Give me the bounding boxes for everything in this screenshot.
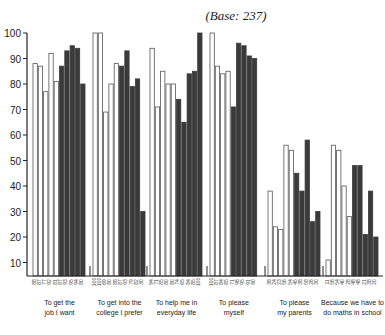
bar <box>358 166 362 276</box>
bar <box>368 191 372 276</box>
y-tick-label: 90 <box>10 54 22 65</box>
bar-value-label: 90 <box>250 279 256 285</box>
bar <box>171 84 175 276</box>
bar <box>182 122 186 276</box>
bar <box>38 66 42 276</box>
bar <box>120 66 124 276</box>
bar <box>33 64 37 276</box>
y-tick-label: 50 <box>10 156 22 167</box>
bar-value-label: 100 <box>195 278 201 287</box>
category-label: everyday life <box>157 309 196 317</box>
y-tick-label: 40 <box>10 181 22 192</box>
bar <box>342 186 346 276</box>
category-label: my parents <box>277 309 312 317</box>
bar <box>75 48 79 276</box>
category-labels: 88877792818793959480To get thejob I want… <box>31 278 385 317</box>
bars <box>27 33 383 276</box>
bar-value-label: 30 <box>313 279 319 285</box>
category-label: To please <box>219 299 249 307</box>
y-tick-label: 80 <box>10 79 22 90</box>
category-label: To help me in <box>156 299 198 307</box>
bar <box>347 217 351 276</box>
bar <box>310 222 314 276</box>
bar <box>93 33 97 276</box>
y-tick-label: 60 <box>10 130 22 141</box>
bar <box>150 48 154 276</box>
bar <box>337 150 341 276</box>
bar <box>109 84 113 276</box>
bar <box>54 81 58 276</box>
bar <box>70 46 74 276</box>
bar <box>221 74 225 276</box>
category-label: do maths in school <box>323 309 382 316</box>
chart-title: (Base: 237) <box>205 8 266 23</box>
category-label: To please <box>280 299 310 307</box>
bar <box>161 71 165 276</box>
category-label: To get into the <box>98 299 142 307</box>
bar <box>295 173 299 276</box>
bar <box>326 260 330 276</box>
bar <box>49 53 53 276</box>
category-label: myself <box>224 309 244 317</box>
bar <box>231 107 235 276</box>
bar <box>226 71 230 276</box>
bar <box>353 166 357 276</box>
bar <box>331 145 335 276</box>
category-label: college I prefer <box>96 309 143 317</box>
bar <box>300 191 304 276</box>
category-label: job I want <box>44 309 75 317</box>
y-tick-label: 20 <box>10 232 22 243</box>
bar-value-label: 20 <box>371 279 377 285</box>
bar <box>44 92 48 276</box>
bar <box>104 112 108 276</box>
bar <box>284 145 288 276</box>
category-label: Because we have to <box>321 299 384 306</box>
bar-value-label: 80 <box>78 279 84 285</box>
bar <box>237 43 241 276</box>
category-label: To get the <box>44 299 75 307</box>
bar <box>60 66 64 276</box>
bar <box>98 33 102 276</box>
bar <box>363 234 367 276</box>
bar <box>155 107 159 276</box>
bar <box>273 227 277 276</box>
bar <box>279 229 283 276</box>
bar <box>65 51 69 276</box>
bar <box>187 74 191 276</box>
y-tick-label: 70 <box>10 105 22 116</box>
bar <box>177 99 181 276</box>
bar <box>114 64 118 276</box>
bar <box>289 150 293 276</box>
bar <box>166 84 170 276</box>
bar <box>198 33 202 276</box>
bar <box>268 191 272 276</box>
bar <box>215 66 219 276</box>
bar <box>247 56 251 276</box>
bar <box>316 212 320 277</box>
bar <box>135 79 139 276</box>
bar <box>305 140 309 276</box>
bar <box>192 71 196 276</box>
bar <box>130 87 134 276</box>
y-tick-label: 10 <box>10 258 22 269</box>
bar <box>125 51 129 276</box>
chart: (Base: 237) 102030405060708090100 888777… <box>0 0 385 335</box>
bar <box>81 84 85 276</box>
bar <box>374 237 378 276</box>
y-tick-label: 100 <box>4 28 21 39</box>
bar <box>242 46 246 276</box>
bar <box>210 33 214 276</box>
y-tick-label: 30 <box>10 207 22 218</box>
bar <box>252 59 256 277</box>
y-axis: 102030405060708090100 <box>4 28 27 276</box>
bar <box>141 212 145 277</box>
bar-value-label: 30 <box>138 279 144 285</box>
